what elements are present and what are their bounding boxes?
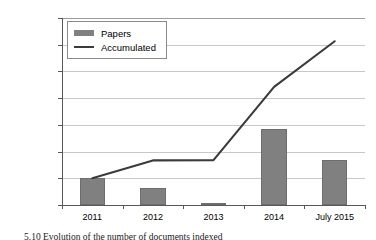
x-axis-line [62, 205, 365, 206]
legend-label: Accumulated [101, 42, 156, 53]
legend-item-accumulated: Accumulated [74, 40, 156, 54]
x-axis-tick-mark [365, 205, 366, 209]
y-axis-line [62, 18, 63, 206]
figure-caption: 5.10 Evolution of the number of document… [24, 231, 374, 240]
x-axis-tick-mark [304, 205, 305, 209]
y-axis-tick-mark [58, 45, 62, 46]
x-axis-tick-label: July 2015 [300, 212, 370, 223]
x-axis-tick-label: 2011 [57, 212, 127, 223]
x-axis-tick-mark [244, 205, 245, 209]
x-axis-tick-mark [62, 205, 63, 209]
bar-swatch-icon [74, 30, 94, 36]
y-axis-tick-mark [58, 98, 62, 99]
legend-item-papers: Papers [74, 26, 156, 40]
y-axis-tick-mark [58, 125, 62, 126]
x-axis-tick-label: 2012 [118, 212, 188, 223]
y-axis-tick-mark [58, 152, 62, 153]
y-axis-tick-mark [58, 71, 62, 72]
x-axis-tick-mark [123, 205, 124, 209]
x-axis-tick-label: 2014 [239, 212, 309, 223]
line-swatch-icon [74, 46, 94, 48]
y-axis-tick-mark [58, 18, 62, 19]
figure-container: 7,000,0006,000,0005,000,0004,000,0003,00… [0, 0, 376, 240]
x-axis-tick-mark [183, 205, 184, 209]
y-axis-tick-mark [58, 178, 62, 179]
legend-label: Papers [101, 28, 131, 39]
x-axis-tick-label: 2013 [179, 212, 249, 223]
chart-legend: Papers Accumulated [67, 21, 167, 59]
